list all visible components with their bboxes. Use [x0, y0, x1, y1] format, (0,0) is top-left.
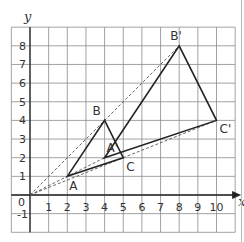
y-tick-label: 6 [19, 77, 26, 90]
y-tick-label: 1 [19, 170, 26, 183]
x-tick-label: 4 [101, 201, 108, 214]
vertex-label-b: B [93, 104, 101, 118]
x-tick-label: 1 [45, 201, 52, 214]
vertex-label-c-prime: C' [220, 122, 232, 136]
y-tick-label-negative: -1 [17, 208, 28, 221]
y-axis-label: y [23, 9, 32, 24]
x-tick-label: 9 [194, 201, 201, 214]
x-tick-label: 6 [138, 201, 145, 214]
labels: 12345678910123456780-1xyABCA'B'C' [17, 9, 244, 221]
x-tick-label: 7 [157, 201, 164, 214]
vertex-label-a: A [69, 179, 78, 193]
vertex-label-a-prime: A' [107, 141, 119, 155]
page-border [241, 0, 242, 242]
x-tick-label: 10 [210, 201, 224, 214]
y-tick-label: 8 [19, 40, 26, 53]
x-tick-label: 3 [82, 201, 89, 214]
vertex-label-c: C [126, 160, 134, 174]
y-tick-label: 3 [19, 133, 26, 146]
x-tick-label: 8 [176, 201, 183, 214]
x-tick-label: 5 [120, 201, 127, 214]
y-tick-label: 2 [19, 152, 26, 165]
y-tick-label: 7 [19, 58, 26, 71]
x-tick-label: 2 [64, 201, 71, 214]
y-tick-label: 5 [19, 96, 26, 109]
y-tick-label: 4 [19, 114, 26, 127]
coordinate-diagram: 12345678910123456780-1xyABCA'B'C' [0, 0, 244, 242]
vertex-label-b-prime: B' [170, 29, 182, 43]
